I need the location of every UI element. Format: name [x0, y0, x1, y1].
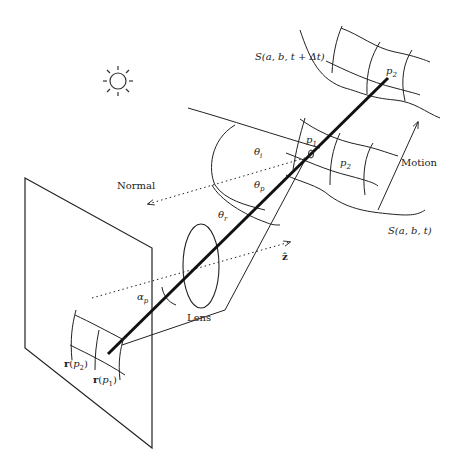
surface-t-plus-dt — [300, 26, 440, 118]
alpha-p-label: αp — [137, 291, 149, 305]
principal-ray — [108, 78, 388, 354]
surface-t-label: S(a, b, t) — [388, 225, 432, 236]
image-plane — [25, 178, 152, 448]
theta-r-label: θr — [218, 209, 228, 223]
normal-label: Normal — [117, 180, 155, 191]
sun-icon — [103, 66, 133, 96]
p2-top-label: p2 — [386, 65, 397, 79]
imaging-diagram: S(a, b, t + Δt) p2 p1 p2 Motion S(a, b, … — [0, 0, 459, 468]
p1-label: p1 — [306, 134, 317, 148]
r-p1-label: rr(p(p1) — [93, 374, 117, 388]
theta-p-label: θp — [254, 179, 265, 193]
p2-mid-label: p2 — [340, 157, 351, 171]
r-p2-label: rr(p(p2) — [64, 358, 88, 372]
theta-i-label: θi — [254, 146, 262, 160]
lens — [183, 224, 219, 308]
motion-label: Motion — [401, 157, 437, 168]
lens-label: Lens — [187, 312, 211, 323]
surface-t-dt-label: S(a, b, t + Δt) — [255, 51, 325, 62]
z-hat-label: ẑ — [282, 251, 288, 262]
z-axis-arrow — [92, 242, 290, 298]
